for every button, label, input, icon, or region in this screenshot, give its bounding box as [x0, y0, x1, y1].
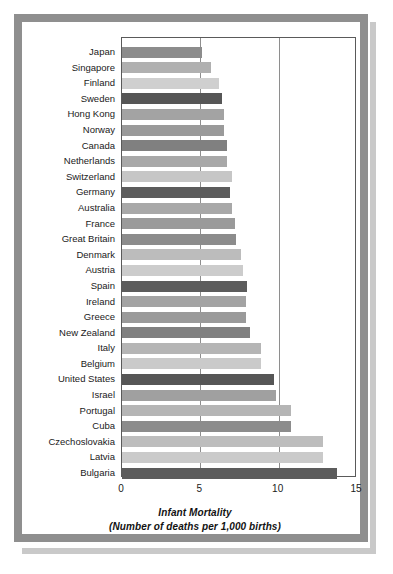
- value-tick-label: 10: [272, 483, 283, 494]
- bar: [122, 249, 241, 260]
- bar-row: [122, 139, 355, 155]
- category-label: Ireland: [20, 294, 115, 310]
- category-label: Denmark: [20, 247, 115, 263]
- bar: [122, 234, 236, 245]
- bar: [122, 452, 323, 463]
- bar-row: [122, 419, 355, 435]
- bar-row: [122, 404, 355, 420]
- value-tick-label: 0: [118, 483, 124, 494]
- bar-row: [122, 107, 355, 123]
- category-label: Portugal: [20, 403, 115, 419]
- bar-row: [122, 123, 355, 139]
- bar-row: [122, 263, 355, 279]
- bar-row: [122, 310, 355, 326]
- bar-row: [122, 341, 355, 357]
- bar-row: [122, 170, 355, 186]
- category-label: Bulgaria: [20, 465, 115, 481]
- category-label: Germany: [20, 184, 115, 200]
- bar-row: [122, 61, 355, 77]
- category-label: New Zealand: [20, 325, 115, 341]
- bar: [122, 421, 291, 432]
- plot-area: [121, 37, 356, 477]
- caption-line-1: Infant Mortality: [30, 506, 360, 520]
- category-label: United States: [20, 371, 115, 387]
- bar-row: [122, 372, 355, 388]
- bar-row: [122, 435, 355, 451]
- bar-row: [122, 295, 355, 311]
- bar: [122, 265, 243, 276]
- category-label: France: [20, 216, 115, 232]
- bar-row: [122, 248, 355, 264]
- bar-series: [122, 45, 355, 482]
- bar: [122, 436, 323, 447]
- bar: [122, 312, 246, 323]
- bar-chart: JapanSingaporeFinlandSwedenHong KongNorw…: [0, 0, 393, 574]
- bar-row: [122, 326, 355, 342]
- category-label: Austria: [20, 262, 115, 278]
- bar: [122, 78, 219, 89]
- bar: [122, 125, 224, 136]
- bar: [122, 327, 250, 338]
- category-axis-labels: JapanSingaporeFinlandSwedenHong KongNorw…: [20, 44, 115, 481]
- category-label: Hong Kong: [20, 106, 115, 122]
- bar: [122, 109, 224, 120]
- bar-row: [122, 450, 355, 466]
- bar: [122, 296, 246, 307]
- category-label: Cuba: [20, 418, 115, 434]
- bar: [122, 374, 274, 385]
- bar-row: [122, 466, 355, 482]
- category-label: Netherlands: [20, 153, 115, 169]
- category-label: Sweden: [20, 91, 115, 107]
- bar-row: [122, 201, 355, 217]
- category-label: Italy: [20, 340, 115, 356]
- category-label: Finland: [20, 75, 115, 91]
- value-tick-label: 15: [350, 483, 361, 494]
- bar: [122, 47, 202, 58]
- bar: [122, 358, 261, 369]
- bar: [122, 203, 232, 214]
- bar-row: [122, 357, 355, 373]
- category-label: Singapore: [20, 60, 115, 76]
- bar: [122, 405, 291, 416]
- bar-row: [122, 45, 355, 61]
- bar-row: [122, 92, 355, 108]
- category-label: Canada: [20, 138, 115, 154]
- category-label: Spain: [20, 278, 115, 294]
- category-label: Norway: [20, 122, 115, 138]
- bar: [122, 390, 276, 401]
- value-axis-labels: 051015: [0, 483, 393, 499]
- bar: [122, 62, 211, 73]
- bar: [122, 93, 222, 104]
- bar: [122, 156, 227, 167]
- bar: [122, 218, 235, 229]
- bar-row: [122, 76, 355, 92]
- category-label: Czechoslovakia: [20, 434, 115, 450]
- bar: [122, 281, 247, 292]
- bar: [122, 468, 337, 479]
- bar-row: [122, 185, 355, 201]
- bar: [122, 171, 232, 182]
- category-label: Israel: [20, 387, 115, 403]
- category-label: Japan: [20, 44, 115, 60]
- bar: [122, 187, 230, 198]
- bar: [122, 140, 227, 151]
- figure-page: JapanSingaporeFinlandSwedenHong KongNorw…: [0, 0, 393, 574]
- bar: [122, 343, 261, 354]
- category-label: Belgium: [20, 356, 115, 372]
- category-label: Australia: [20, 200, 115, 216]
- category-label: Great Britain: [20, 231, 115, 247]
- bar-row: [122, 388, 355, 404]
- bar-row: [122, 154, 355, 170]
- category-label: Switzerland: [20, 169, 115, 185]
- value-tick-label: 5: [197, 483, 203, 494]
- category-label: Greece: [20, 309, 115, 325]
- bar-row: [122, 217, 355, 233]
- category-label: Latvia: [20, 449, 115, 465]
- chart-caption: Infant Mortality (Number of deaths per 1…: [30, 506, 360, 534]
- caption-line-2: (Number of deaths per 1,000 births): [30, 520, 360, 534]
- bar-row: [122, 232, 355, 248]
- bar-row: [122, 279, 355, 295]
